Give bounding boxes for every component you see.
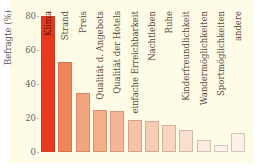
y-tick-label: 0 [20,147,36,157]
bar [76,93,90,153]
y-tick-mark [37,152,39,153]
y-axis-label: Befragte (%) [3,10,17,80]
bar-label: andere [231,11,245,41]
bar-label: Sportmöglichkeiten [214,11,228,96]
bar-label: Wandermöglichkeiten [197,11,211,105]
bar-label: Nachtleben [145,11,159,61]
y-tick-mark [37,16,39,17]
bar [179,130,193,152]
bar [110,111,124,152]
y-tick-label: 80 [20,11,36,21]
y-tick-label: 20 [20,113,36,123]
bar [214,145,228,152]
bar-label: Qualität d. Angebots [93,11,107,100]
bar-label: einfache Erreichbarkeit [128,11,142,114]
bar-label: Qualität der Hotels [110,11,124,94]
bar [41,16,55,152]
bar-label: Preis [76,11,90,33]
bar [128,120,142,152]
y-tick-mark [37,84,39,85]
bar-label: Strand [58,11,72,40]
y-tick-mark [37,50,39,51]
bar [162,125,176,152]
y-tick-label: 40 [20,79,36,89]
y-tick-label: 60 [20,45,36,55]
bar-label: Klima [41,11,55,36]
bar [231,133,245,152]
bar-label: Kinderfreundlichkeit [179,11,193,101]
bar [58,62,72,152]
bar-label: Ruhe [162,11,176,33]
bar [145,121,159,152]
bar [197,140,211,152]
y-tick-mark [37,118,39,119]
bar [93,110,107,153]
